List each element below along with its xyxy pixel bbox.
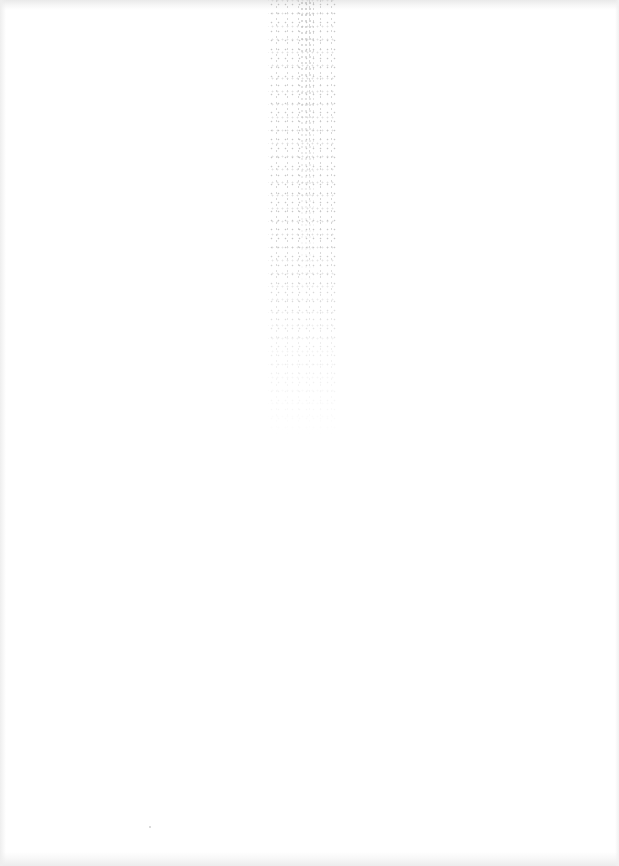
scan-noise-streak-core xyxy=(300,0,314,300)
blank-document-page xyxy=(0,0,619,866)
dust-speck xyxy=(149,826,151,828)
scan-edge-right xyxy=(615,0,619,866)
scan-edge-bottom xyxy=(0,852,619,866)
scan-edge-left xyxy=(0,0,6,866)
